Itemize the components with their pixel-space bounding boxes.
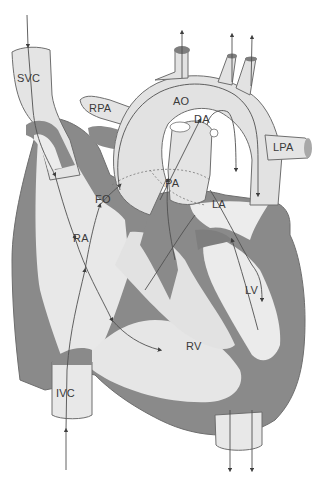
pulmonary-trunk (168, 121, 212, 205)
label-fo: FO (95, 193, 111, 205)
label-pa: PA (165, 177, 179, 189)
label-da: DA (194, 113, 210, 125)
label-ao: AO (173, 95, 189, 107)
label-ivc: IVC (56, 387, 75, 399)
fetal-heart-diagram (0, 0, 321, 481)
label-svc: SVC (17, 72, 40, 84)
label-lv: LV (245, 284, 258, 296)
descending-aorta-lower (215, 412, 262, 450)
label-rpa: RPA (89, 102, 111, 114)
label-ra: RA (73, 232, 89, 244)
label-la: LA (212, 198, 226, 210)
label-rv: RV (186, 340, 201, 352)
label-lpa: LPA (273, 141, 294, 153)
